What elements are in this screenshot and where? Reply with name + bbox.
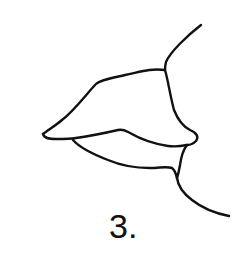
philtrum-line [165, 25, 201, 70]
figure-number-label: 3. [109, 206, 137, 246]
upper-lip-front-contour [165, 70, 197, 145]
lower-lip-front-contour [177, 145, 187, 178]
upper-lip-top-outline [43, 69, 165, 134]
mouth-line [43, 130, 187, 147]
chin-curve [177, 178, 229, 216]
lips-profile-figure: 3. [0, 0, 237, 253]
